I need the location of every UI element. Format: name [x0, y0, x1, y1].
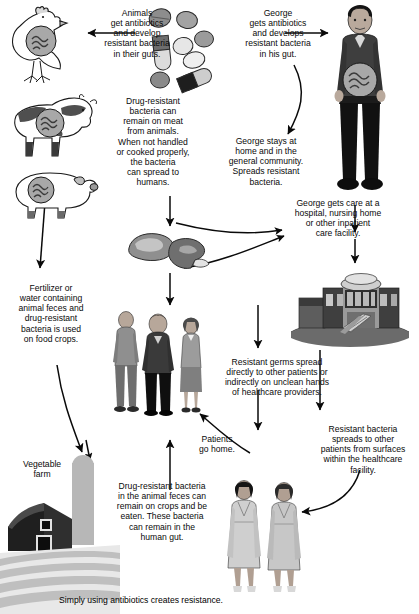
label-patients-go-home: Patients go home. [184, 434, 250, 454]
label-fertilizer: Fertilizer or water containing animal fe… [2, 283, 100, 344]
patients-in-gowns-figure [222, 476, 312, 594]
george-figure [325, 4, 395, 204]
cow-figure [6, 90, 98, 164]
raw-meat-figure [125, 228, 217, 276]
label-george-care: George gets care at a hospital, nursing … [276, 198, 400, 239]
pig-figure [8, 168, 100, 220]
label-meat-bacteria: Drug-resistant bacteria can remain on me… [104, 96, 202, 187]
label-crops-bacteria: Drug-resistant bacteria in the animal fe… [100, 481, 224, 542]
label-surfaces-spread: Resistant bacteria spreads to other pati… [308, 424, 418, 475]
arrow-george-to-community [288, 65, 301, 134]
label-animals-antibiotics: Animals get antibiotics and develop resi… [94, 8, 180, 59]
label-george-home: George stays at home and in the general … [218, 136, 314, 187]
chicken-figure [4, 6, 88, 84]
diagram-canvas: Animals get antibiotics and develop resi… [0, 0, 419, 614]
footer-caption: Simply using antibiotics creates resista… [16, 595, 266, 605]
label-george-antibiotics: George gets antibiotics and develops res… [232, 8, 324, 59]
label-vegetable-farm: Vegetable farm [8, 459, 76, 479]
hospital-building-figure [285, 262, 415, 354]
community-people-figure [108, 308, 208, 416]
arrow-fertilizer-to-farm [57, 365, 82, 452]
label-resistant-germs-spread: Resistant germs spread directly to other… [202, 357, 352, 398]
